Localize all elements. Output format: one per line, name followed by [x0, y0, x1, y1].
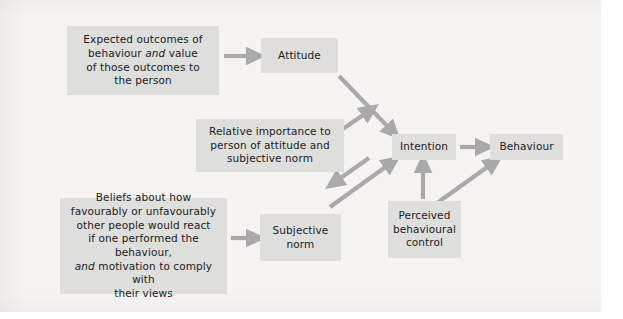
node-attitude-label: Attitude	[265, 49, 334, 63]
line-1: Expected outcomes of	[83, 33, 202, 45]
node-behaviour: Behaviour	[490, 134, 563, 160]
line-1: Beliefs about how	[96, 191, 191, 203]
line-2: behavioural	[393, 223, 456, 235]
line-3: subjective norm	[227, 152, 313, 164]
node-beliefs-about-outcomes: Expected outcomes of behaviour and value…	[67, 26, 219, 95]
line-2: favourably or unfavourably	[71, 205, 216, 217]
node-attitude: Attitude	[261, 38, 338, 73]
line-1: Perceived	[399, 209, 451, 221]
node-normative-beliefs: Beliefs about how favourably or unfavour…	[60, 198, 227, 294]
line-2: person of attitude and	[210, 139, 330, 151]
node-behaviour-label: Behaviour	[494, 140, 559, 154]
diagram-page: Expected outcomes of behaviour and value…	[0, 0, 623, 319]
line-4: if one performed the behaviour,	[88, 232, 198, 258]
node-subjective-norm: Subjective norm	[260, 214, 341, 261]
line-1: Subjective	[273, 224, 329, 236]
node-relative-importance: Relative importance to person of attitud…	[196, 119, 344, 172]
line-4: the person	[114, 74, 172, 86]
line-1: Relative importance to	[209, 125, 331, 137]
scanned-page-area: Expected outcomes of behaviour and value…	[0, 0, 601, 312]
line-3: other people would react	[76, 219, 210, 231]
line-3: of those outcomes to	[86, 61, 199, 73]
arrow-pbc-to-behaviour	[437, 163, 493, 203]
node-intention: Intention	[392, 134, 456, 160]
italic-and: and	[75, 260, 95, 272]
line-6: their views	[114, 287, 173, 299]
italic-and: and	[145, 47, 165, 59]
arrow-attitude-to-intention	[339, 76, 392, 131]
line-3: control	[406, 236, 443, 248]
node-perceived-behavioural-control: Perceived behavioural control	[388, 201, 461, 258]
node-intention-label: Intention	[396, 140, 452, 154]
line-2: norm	[287, 238, 315, 250]
